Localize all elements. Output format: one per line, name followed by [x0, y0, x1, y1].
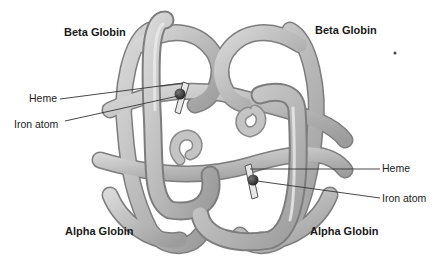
subunit-label-beta-top-left: Beta Globin	[64, 26, 126, 38]
hemoglobin-illustration	[0, 0, 437, 263]
subunit-label-alpha-bottom-left: Alpha Globin	[65, 225, 133, 237]
callout-heme-left: Heme	[29, 92, 57, 104]
callout-iron-atom-left: Iron atom	[14, 118, 58, 130]
subunit-label-alpha-bottom-right: Alpha Globin	[310, 225, 378, 237]
leader-line-iron-right	[257, 181, 380, 198]
callout-iron-atom-right: Iron atom	[382, 192, 426, 204]
subunit-label-beta-top-right: Beta Globin	[315, 24, 377, 36]
callout-heme-right: Heme	[382, 162, 410, 174]
